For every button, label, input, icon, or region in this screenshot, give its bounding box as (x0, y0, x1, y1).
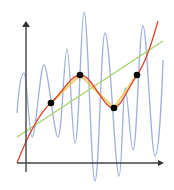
interpolation-diagram (0, 0, 174, 190)
oscillating-curve (17, 12, 163, 181)
diagram-title: Interpolation of data points (0, 0, 14, 1)
data-point (111, 105, 118, 112)
y-axis-arrow-icon (22, 21, 30, 27)
data-point (77, 72, 84, 79)
x-axis-arrow-icon (158, 160, 164, 166)
data-point (48, 100, 55, 107)
data-point (134, 72, 141, 79)
